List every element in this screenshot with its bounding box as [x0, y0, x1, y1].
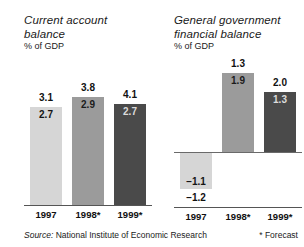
panel-title-right-line1: General government [174, 14, 281, 26]
panel-title-right: General government financial balance [174, 14, 281, 41]
x-tick-left-1997: 1997 [24, 209, 68, 220]
panel-subtitle-left: % of GDP [24, 41, 64, 52]
x-axis-line-right [174, 207, 302, 208]
bar-left-1997 [30, 107, 62, 205]
bar-label-outer-left-1998: 3.8 [72, 82, 104, 93]
bar-label-outer-left-1999: 4.1 [114, 89, 146, 100]
footer-source: Source: National Institute of Economic R… [24, 230, 207, 240]
bar-label-inner-right-1998: 1.9 [222, 75, 254, 86]
chart-figure: Current account balance % of GDP 3.1 3.8… [0, 0, 304, 247]
footer-source-prefix: Source: [24, 230, 53, 240]
bar-label-outer-right-1998: 1.3 [222, 58, 254, 69]
bar-label-inner-left-1998: 2.9 [72, 99, 104, 110]
chart-panel-current-account: Current account balance % of GDP 3.1 3.8… [18, 0, 158, 247]
bar-label-inner-right-1997: −1.1 [178, 176, 214, 187]
bar-label-inner-left-1997: 2.7 [30, 109, 62, 120]
x-tick-left-1998: 1998* [66, 209, 110, 220]
panel-title-right-line2: financial balance [174, 28, 281, 42]
footer-source-text: National Institute of Economic Research [56, 230, 207, 240]
panel-subtitle-right: % of GDP [174, 41, 214, 52]
plot-area-right: −1.2 1.3 2.0 −1.1 1.9 1.3 1997 1998* 199… [174, 60, 302, 209]
x-tick-left-1999: 1999* [108, 209, 152, 220]
chart-panel-government-balance: General government financial balance % o… [168, 0, 304, 247]
bar-label-outer-right-1999: 2.0 [264, 77, 296, 88]
bar-left-1998 [72, 97, 104, 205]
x-tick-right-1997: 1997 [174, 211, 218, 222]
panel-title-left-line2: balance [24, 28, 107, 42]
x-tick-right-1998: 1998* [216, 211, 260, 222]
plot-area-left: 3.1 3.8 4.1 2.7 2.9 2.7 1997 1998* 1999* [24, 60, 152, 205]
panel-title-left-line1: Current account [24, 14, 107, 26]
footer-forecast-note: * Forecast [259, 230, 298, 240]
x-axis-line-left [24, 205, 152, 206]
bar-label-inner-right-1999: 1.3 [264, 94, 296, 105]
bar-label-inner-left-1999: 2.7 [114, 106, 146, 117]
bar-left-1999 [114, 104, 146, 205]
bar-label-outer-left-1997: 3.1 [30, 92, 62, 103]
x-tick-right-1999: 1999* [258, 211, 302, 222]
panel-title-left: Current account balance [24, 14, 107, 41]
bar-label-outer-right-1997: −1.2 [178, 192, 214, 203]
